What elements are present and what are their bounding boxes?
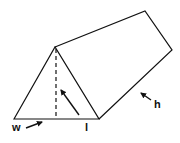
l-arrow-icon [61,90,79,115]
width-label: w [11,121,21,133]
triangular-prism-diagram: w l h [0,0,180,143]
h-arrow-icon [141,93,151,100]
w-arrow-icon [26,122,42,128]
length-label: l [85,121,88,133]
height-label: h [154,98,161,110]
